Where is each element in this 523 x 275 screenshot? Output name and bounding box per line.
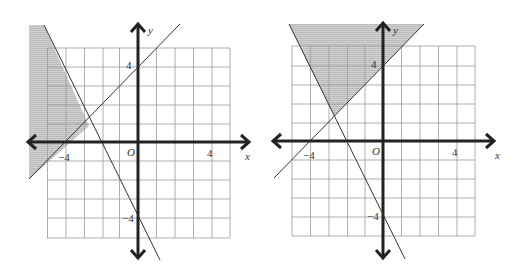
y-axis-label-left: y	[148, 24, 153, 36]
y-tick-neg4-left: −4	[122, 212, 134, 224]
origin-label-right: O	[372, 145, 380, 157]
x-tick-4-right: 4	[452, 146, 458, 158]
y-tick-4-right: 4	[371, 58, 377, 70]
x-tick-neg4-left: −4	[58, 151, 70, 163]
x-axis-label-right: x	[495, 149, 500, 161]
x-tick-neg4-right: −4	[303, 149, 315, 161]
origin-label-left: O	[127, 146, 135, 158]
y-axis-label-right: y	[393, 24, 398, 36]
x-tick-4-left: 4	[207, 147, 213, 159]
y-tick-4-left: 4	[126, 59, 132, 71]
x-axis-label-left: x	[245, 150, 250, 162]
y-tick-neg4-right: −4	[367, 210, 379, 222]
